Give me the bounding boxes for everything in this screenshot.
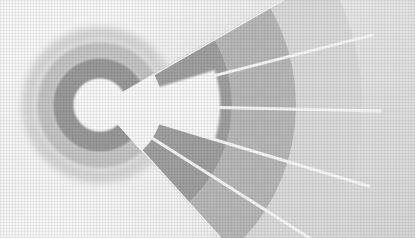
radial-sunburst-svg: [0, 0, 415, 238]
texture-overlay-group: [0, 0, 415, 238]
figure-canvas: Radial sunburst diagram Grayscale polar …: [0, 0, 415, 238]
texture-overlay-rect: [0, 0, 415, 238]
